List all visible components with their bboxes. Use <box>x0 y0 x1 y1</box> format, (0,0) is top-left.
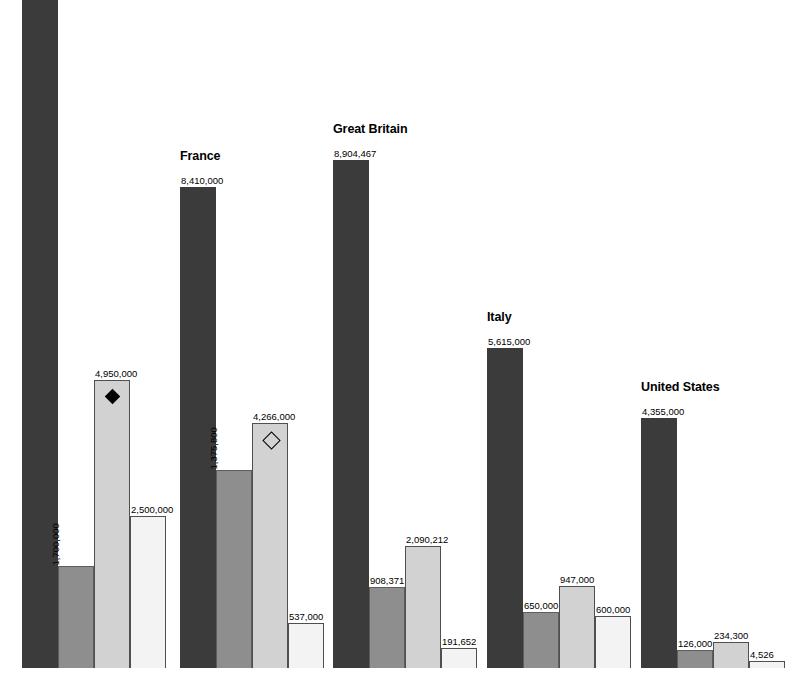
bar[interactable]: 908,371 <box>369 587 405 668</box>
group-title: United States <box>641 380 720 394</box>
bar-series-row: 8,904,467908,3712,090,212191,652 <box>333 160 477 668</box>
bar-wrapper <box>22 0 58 668</box>
bar-value-label: 600,000 <box>596 605 630 615</box>
bar-wrapper: 600,000 <box>595 616 631 668</box>
bar-series-row: 1,700,0004,950,0002,500,000 <box>22 0 166 668</box>
group-title: Italy <box>487 310 512 324</box>
bar-value-label: 5,615,000 <box>488 337 530 347</box>
bar-value-label: 650,000 <box>524 601 558 611</box>
bar-wrapper: 4,266,000 <box>252 423 288 668</box>
bar-value-label: 4,526 <box>750 650 774 660</box>
bar-wrapper: 4,355,000 <box>641 418 677 668</box>
bar-wrapper: 234,300 <box>713 642 749 668</box>
bar[interactable] <box>22 0 58 668</box>
bar-value-label: 4,355,000 <box>642 407 684 417</box>
bar-value-label: 2,500,000 <box>131 505 173 515</box>
bar[interactable]: 4,266,000 <box>252 423 288 668</box>
diamond-marker-icon <box>104 389 120 405</box>
bar-value-label: 1,700,000 <box>51 523 61 565</box>
bar-wrapper: 4,526 <box>749 661 785 668</box>
bar[interactable]: 4,355,000 <box>641 418 677 668</box>
bar[interactable]: 5,615,000 <box>487 348 523 668</box>
bar-series-row: 5,615,000650,000947,000600,000 <box>487 348 631 668</box>
bar-value-label: 191,652 <box>442 637 476 647</box>
bar-wrapper: 2,500,000 <box>130 516 166 668</box>
bar-wrapper: 191,652 <box>441 648 477 668</box>
bar-wrapper: 4,950,000 <box>94 380 130 668</box>
bar-wrapper: 8,904,467 <box>333 160 369 668</box>
bar-series-row: 4,355,000126,000234,3004,526 <box>641 418 785 668</box>
bar-value-label: 908,371 <box>370 576 404 586</box>
bar[interactable]: 191,652 <box>441 648 477 668</box>
bar[interactable]: 126,000 <box>677 650 713 668</box>
bar-wrapper: 1,700,000 <box>58 566 94 668</box>
bar-series-row: 8,410,0001,375,8004,266,000537,000 <box>180 187 324 668</box>
bar[interactable]: 8,904,467 <box>333 160 369 668</box>
bar-wrapper: 537,000 <box>288 623 324 668</box>
bar-value-label: 8,410,000 <box>181 176 223 186</box>
group-title: Great Britain <box>333 122 407 136</box>
bar[interactable]: 4,526 <box>749 661 785 668</box>
bar[interactable]: 947,000 <box>559 586 595 668</box>
bar[interactable]: 2,500,000 <box>130 516 166 668</box>
bar-value-label: 947,000 <box>560 575 594 585</box>
group-title: France <box>180 149 220 163</box>
bar-wrapper: 650,000 <box>523 612 559 668</box>
bar-value-label: 2,090,212 <box>406 535 448 545</box>
bar-wrapper: 2,090,212 <box>405 546 441 668</box>
bar-wrapper: 5,615,000 <box>487 348 523 668</box>
bar-value-label: 126,000 <box>678 639 712 649</box>
bar[interactable]: 234,300 <box>713 642 749 668</box>
bar-value-label: 537,000 <box>289 612 323 622</box>
diamond-marker-icon <box>262 431 280 449</box>
bar-value-label: 4,950,000 <box>95 369 137 379</box>
bar-value-label: 8,904,467 <box>334 149 376 159</box>
bar-value-label: 1,375,800 <box>209 427 219 469</box>
bar-wrapper: 908,371 <box>369 587 405 668</box>
bar[interactable]: 2,090,212 <box>405 546 441 668</box>
bar[interactable]: 600,000 <box>595 616 631 668</box>
bar[interactable]: 4,950,000 <box>94 380 130 668</box>
bar-wrapper: 1,375,800 <box>216 470 252 668</box>
bar-wrapper: 947,000 <box>559 586 595 668</box>
bar[interactable]: 650,000 <box>523 612 559 668</box>
bar[interactable]: 1,700,000 <box>58 566 94 668</box>
bar[interactable]: 1,375,800 <box>216 470 252 668</box>
bar-wrapper: 126,000 <box>677 650 713 668</box>
grouped-bar-chart: 1,700,0004,950,0002,500,000France8,410,0… <box>0 0 800 683</box>
bar-value-label: 4,266,000 <box>253 412 295 422</box>
bar-value-label: 234,300 <box>714 631 748 641</box>
bar[interactable]: 537,000 <box>288 623 324 668</box>
